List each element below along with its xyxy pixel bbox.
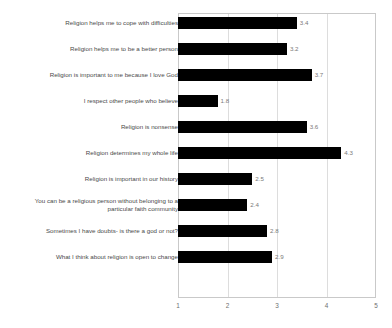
bar-value-label: 4.3 bbox=[344, 147, 353, 159]
x-tick-label-2: 2 bbox=[226, 302, 230, 309]
bar bbox=[178, 69, 312, 81]
category-label: Religion is nonsense bbox=[0, 123, 178, 131]
bar bbox=[178, 147, 341, 159]
bar-row: Religion is nonsense3.6 bbox=[0, 121, 392, 147]
category-label: I respect other people who believe bbox=[0, 97, 178, 105]
bar-value-label: 3.4 bbox=[300, 17, 309, 29]
bar-row: What I think about religion is open to c… bbox=[0, 251, 392, 277]
bar-row: Religion determines my whole life4.3 bbox=[0, 147, 392, 173]
category-label: Sometimes I have doubts- is there a god … bbox=[0, 227, 178, 235]
category-label: Religion determines my whole life bbox=[0, 149, 178, 157]
x-tick-label-5: 5 bbox=[374, 302, 378, 309]
x-tick-label-3: 3 bbox=[275, 302, 279, 309]
bar-row: Religion is important to me because I lo… bbox=[0, 69, 392, 95]
bar-value-label: 3.2 bbox=[290, 43, 299, 55]
category-label: Religion helps me to be a better person bbox=[0, 45, 178, 53]
bar bbox=[178, 95, 218, 107]
bar bbox=[178, 121, 307, 133]
bar-row: Religion is important in our history2.5 bbox=[0, 173, 392, 199]
category-label: Religion helps me to cope with difficult… bbox=[0, 19, 178, 27]
x-tick-label-4: 4 bbox=[325, 302, 329, 309]
bar bbox=[178, 199, 247, 211]
category-label: Religion is important in our history bbox=[0, 175, 178, 183]
bar-value-label: 1.8 bbox=[221, 95, 230, 107]
bar-value-label: 2.8 bbox=[270, 225, 279, 237]
category-label: What I think about religion is open to c… bbox=[0, 253, 178, 261]
bar-row: You can be a religious person without be… bbox=[0, 199, 392, 225]
bar bbox=[178, 251, 272, 263]
category-label: You can be a religious person without be… bbox=[0, 197, 178, 212]
bar-value-label: 2.5 bbox=[255, 173, 264, 185]
x-tick-label-1: 1 bbox=[176, 302, 180, 309]
category-label: Religion is important to me because I lo… bbox=[0, 71, 178, 79]
bar-value-label: 3.6 bbox=[310, 121, 319, 133]
bar bbox=[178, 225, 267, 237]
bar-value-label: 3.7 bbox=[315, 69, 324, 81]
bar-chart: Religion helps me to cope with difficult… bbox=[0, 0, 392, 328]
bar bbox=[178, 173, 252, 185]
bar-row: Sometimes I have doubts- is there a god … bbox=[0, 225, 392, 251]
bar-row: Religion helps me to cope with difficult… bbox=[0, 17, 392, 43]
bar-row: Religion helps me to be a better person3… bbox=[0, 43, 392, 69]
bar-row: I respect other people who believe1.8 bbox=[0, 95, 392, 121]
bar bbox=[178, 17, 297, 29]
bar bbox=[178, 43, 287, 55]
bar-value-label: 2.4 bbox=[250, 199, 259, 211]
bar-value-label: 2.9 bbox=[275, 251, 284, 263]
